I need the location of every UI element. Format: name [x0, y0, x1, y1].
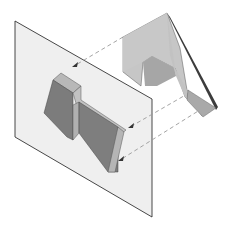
projection-diagram	[0, 0, 229, 231]
diagram-canvas	[0, 0, 229, 231]
